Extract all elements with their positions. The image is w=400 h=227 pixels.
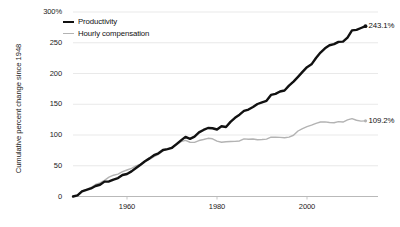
y-axis-tick-label: 200 (28, 69, 62, 78)
y-axis-tick-label: 250 (28, 38, 62, 47)
compensation-end-marker (364, 119, 367, 122)
series-line-hourly-compensation (73, 119, 366, 197)
legend-item-hourly-compensation: Hourly compensation (63, 28, 149, 39)
y-axis-tick-label: 100 (28, 130, 62, 139)
series-line-productivity (73, 26, 366, 196)
x-axis-tick-label: 2000 (287, 202, 327, 211)
compensation-end-label: 109.2% (369, 116, 395, 125)
legend-label-productivity: Productivity (78, 17, 117, 26)
productivity-end-label: 243.1% (369, 21, 395, 30)
legend-item-productivity: Productivity (63, 16, 149, 27)
x-axis-tick-label: 1980 (197, 202, 237, 211)
y-axis-tick-label: 150 (28, 99, 62, 108)
y-axis-title: Cumulative percent change since 1948 (14, 29, 23, 189)
chart-legend: Productivity Hourly compensation (63, 16, 149, 40)
x-axis-tick-label: 1960 (107, 202, 147, 211)
legend-label-hourly-compensation: Hourly compensation (78, 29, 149, 38)
y-axis-tick-label: 300% (28, 7, 62, 16)
productivity-pay-gap-chart: Cumulative percent change since 1948 300… (0, 0, 400, 227)
productivity-end-marker (364, 24, 368, 28)
y-axis-tick-label: 0 (28, 192, 62, 201)
y-axis-tick-label: 50 (28, 161, 62, 170)
legend-swatch-productivity-icon (63, 21, 74, 23)
legend-swatch-compensation-icon (63, 33, 74, 34)
